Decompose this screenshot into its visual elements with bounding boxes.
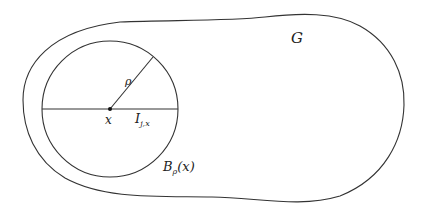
segment-label: Ij,x bbox=[135, 112, 150, 128]
diagram-canvas bbox=[0, 0, 423, 213]
ball-label-main: B bbox=[163, 159, 173, 174]
ball-label: Bρ(x) bbox=[163, 160, 195, 176]
domain-g-boundary bbox=[23, 14, 404, 201]
radius-label-rho: ρ bbox=[125, 76, 131, 87]
center-point-x bbox=[108, 107, 112, 111]
ball-label-arg: (x) bbox=[177, 159, 194, 174]
domain-label-g: G bbox=[291, 31, 303, 46]
radius-rho-line bbox=[110, 57, 153, 109]
center-label-x: x bbox=[105, 114, 112, 126]
segment-label-sub: j,x bbox=[140, 119, 150, 128]
